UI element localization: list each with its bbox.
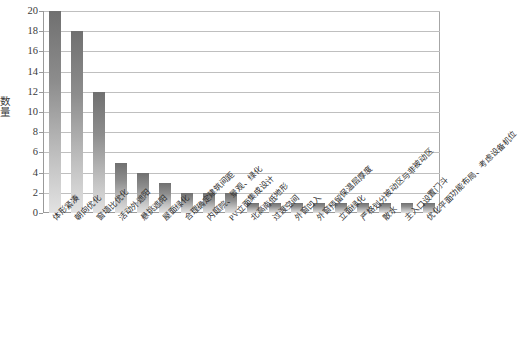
- y-tick-mark: [39, 213, 43, 214]
- y-tick-mark: [39, 193, 43, 194]
- y-tick-label: 12: [17, 87, 38, 98]
- bar: [357, 203, 369, 213]
- bar: [159, 183, 171, 213]
- bar: [203, 193, 215, 213]
- y-tick-label: 14: [17, 67, 38, 78]
- y-tick-mark: [39, 51, 43, 52]
- bar: [49, 11, 61, 213]
- y-tick-label: 20: [17, 6, 38, 17]
- y-axis-title-char: 数: [0, 96, 12, 107]
- bar: [181, 193, 193, 213]
- bar: [93, 92, 105, 213]
- y-tick-mark: [39, 152, 43, 153]
- bar: [401, 203, 413, 213]
- y-tick-label: 2: [17, 188, 38, 199]
- bar: [115, 163, 127, 214]
- y-tick-mark: [39, 31, 43, 32]
- bar: [247, 203, 259, 213]
- y-tick-label: 10: [17, 107, 38, 118]
- y-tick-mark: [39, 112, 43, 113]
- bar: [335, 203, 347, 213]
- bar: [379, 203, 391, 213]
- y-tick-label: 4: [17, 168, 38, 179]
- bar: [137, 173, 149, 213]
- y-tick-mark: [39, 132, 43, 133]
- y-tick-mark: [39, 72, 43, 73]
- bar: [71, 31, 83, 213]
- bar: [291, 203, 303, 213]
- bar-series: [44, 11, 440, 213]
- y-tick-label: 6: [17, 147, 38, 158]
- bar: [313, 203, 325, 213]
- y-tick-label: 16: [17, 46, 38, 57]
- y-tick-label: 18: [17, 26, 38, 37]
- y-axis-title-char: 量: [0, 107, 12, 118]
- bar: [225, 193, 237, 213]
- bar: [269, 203, 281, 213]
- y-tick-label: 0: [17, 208, 38, 219]
- y-axis-title: 数量: [0, 96, 12, 118]
- y-tick-label: 8: [17, 127, 38, 138]
- y-tick-mark: [39, 92, 43, 93]
- bar: [423, 203, 435, 213]
- y-tick-mark: [39, 11, 43, 12]
- y-tick-mark: [39, 173, 43, 174]
